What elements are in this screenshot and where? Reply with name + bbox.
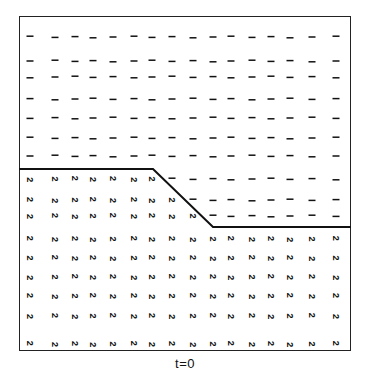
phase-2-symbol: 2: [50, 198, 60, 203]
phase-2-symbol: 2: [307, 256, 317, 261]
interface-line: [19, 169, 351, 227]
phase-2-symbol: 2: [108, 294, 118, 299]
phase-2-symbol: 2: [208, 294, 218, 299]
phase-2-symbol: 2: [247, 237, 257, 242]
phase-2-symbol: 2: [331, 236, 341, 241]
phase-2-symbol: 2: [331, 293, 341, 298]
phase-2-symbol: 2: [307, 294, 317, 299]
phase-2-symbol: 2: [147, 274, 157, 279]
phase-2-symbol: 2: [50, 176, 60, 181]
time-caption: t=0: [0, 356, 370, 371]
phase-2-symbol: 2: [129, 293, 139, 298]
phase-2-symbol: 2: [266, 314, 276, 319]
phase-2-symbol: 2: [50, 294, 60, 299]
phase-2-symbol: 2: [88, 313, 98, 318]
phase-2-symbol: 2: [25, 314, 35, 319]
phase-2-symbol: 2: [88, 342, 98, 347]
phase-2-symbol: 2: [167, 274, 177, 279]
phase-2-symbol: 2: [226, 255, 236, 260]
phase-2-symbol: 2: [188, 213, 198, 218]
phase-2-symbol: 2: [285, 313, 295, 318]
phase-2-symbol: 2: [331, 341, 341, 346]
phase-2-symbol: 2: [70, 256, 80, 261]
phase-2-symbol: 2: [247, 274, 257, 279]
phase-2-symbol: 2: [266, 256, 276, 261]
phase-2-symbol: 2: [129, 214, 139, 219]
phase-2-symbol: 2: [208, 274, 218, 279]
phase-2-symbol: 2: [25, 255, 35, 260]
phase-2-symbol: 2: [247, 342, 257, 347]
phase-field-diagram: 2222222222222222222222222222222222222222…: [0, 0, 370, 373]
phase-2-symbol: 2: [108, 341, 118, 346]
phase-2-symbol: 2: [129, 275, 139, 280]
phase-2-symbol: 2: [266, 293, 276, 298]
phase-2-symbol: 2: [108, 236, 118, 241]
phase-2-symbol: 2: [188, 342, 198, 347]
phase-2-symbol: 2: [167, 314, 177, 319]
phase-2-symbol: 2: [129, 341, 139, 346]
phase-2-symbol: 2: [307, 236, 317, 241]
phase-2-symbol: 2: [147, 342, 157, 347]
phase-2-symbol: 2: [188, 237, 198, 242]
phase-2-symbol: 2: [331, 314, 341, 319]
phase-2-symbol: 2: [331, 275, 341, 280]
phase-2-symbol: 2: [88, 237, 98, 242]
phase-2-symbol: 2: [70, 214, 80, 219]
phase-2-symbol: 2: [147, 255, 157, 260]
phase-2-symbol: 2: [70, 176, 80, 181]
phase-2-symbol: 2: [167, 214, 177, 219]
phase-2-symbol: 2: [70, 274, 80, 279]
phase-2-symbol: 2: [88, 293, 98, 298]
phase-2-symbol: 2: [129, 255, 139, 260]
phase-2-symbol: 2: [285, 342, 295, 347]
phase-2-symbol: 2: [188, 293, 198, 298]
phase-2-symbol: 2: [307, 313, 317, 318]
phase-2-symbol: 2: [25, 293, 35, 298]
phase-2-symbol: 2: [167, 236, 177, 241]
phase-2-symbol: 2: [147, 198, 157, 203]
phase-2-symbol: 2: [70, 314, 80, 319]
phase-2-symbol: 2: [50, 213, 60, 218]
phase-2-symbol: 2: [331, 255, 341, 260]
phase-2-symbol: 2: [167, 197, 177, 202]
phase-2-symbol: 2: [25, 275, 35, 280]
phase-2-symbol: 2: [188, 255, 198, 260]
phase-2-symbol: 2: [266, 274, 276, 279]
phase-2-symbol: 2: [208, 236, 218, 241]
phase-2-symbol: 2: [50, 313, 60, 318]
phase-2-symbol: 2: [108, 213, 118, 218]
phase-2-symbol: 2: [70, 341, 80, 346]
phase-2-symbol: 2: [147, 176, 157, 181]
phase-2-symbol: 2: [88, 177, 98, 182]
phase-2-symbol: 2: [50, 274, 60, 279]
phase-2-symbol: 2: [247, 294, 257, 299]
phase-2-symbol: 2: [285, 255, 295, 260]
phase-2-symbol: 2: [147, 213, 157, 218]
phase-2-symbol: 2: [25, 214, 35, 219]
phase-2-symbol: 2: [129, 314, 139, 319]
phase-2-symbol: 2: [88, 275, 98, 280]
phase-2-symbol: 2: [25, 236, 35, 241]
phase-2-symbol: 2: [25, 197, 35, 202]
phase-2-symbol: 2: [188, 313, 198, 318]
phase-2-symbol: 2: [226, 314, 236, 319]
phase-2-symbol: 2: [108, 176, 118, 181]
phase-2-symbol: 2: [167, 341, 177, 346]
phase-2-symbol: 2: [266, 236, 276, 241]
phase-2-symbol: 2: [208, 256, 218, 261]
phase-2-symbol: 2: [307, 274, 317, 279]
phase-2-symbol: 2: [307, 341, 317, 346]
phase-2-symbol: 2: [188, 275, 198, 280]
phase-2-symbol: 2: [226, 341, 236, 346]
phase-2-symbol: 2: [50, 255, 60, 260]
phase-2-symbol: 2: [70, 293, 80, 298]
phase-2-symbol: 2: [247, 313, 257, 318]
phase-2-symbol: 2: [167, 293, 177, 298]
phase-2-symbol: 2: [108, 198, 118, 203]
phase-2-symbol: 2: [226, 275, 236, 280]
phase-2-symbol: 2: [50, 342, 60, 347]
phase-2-symbol: 2: [247, 255, 257, 260]
phase-2-symbol: 2: [147, 237, 157, 242]
phase-2-symbol: 2: [129, 197, 139, 202]
phase-2-symbol: 2: [129, 177, 139, 182]
